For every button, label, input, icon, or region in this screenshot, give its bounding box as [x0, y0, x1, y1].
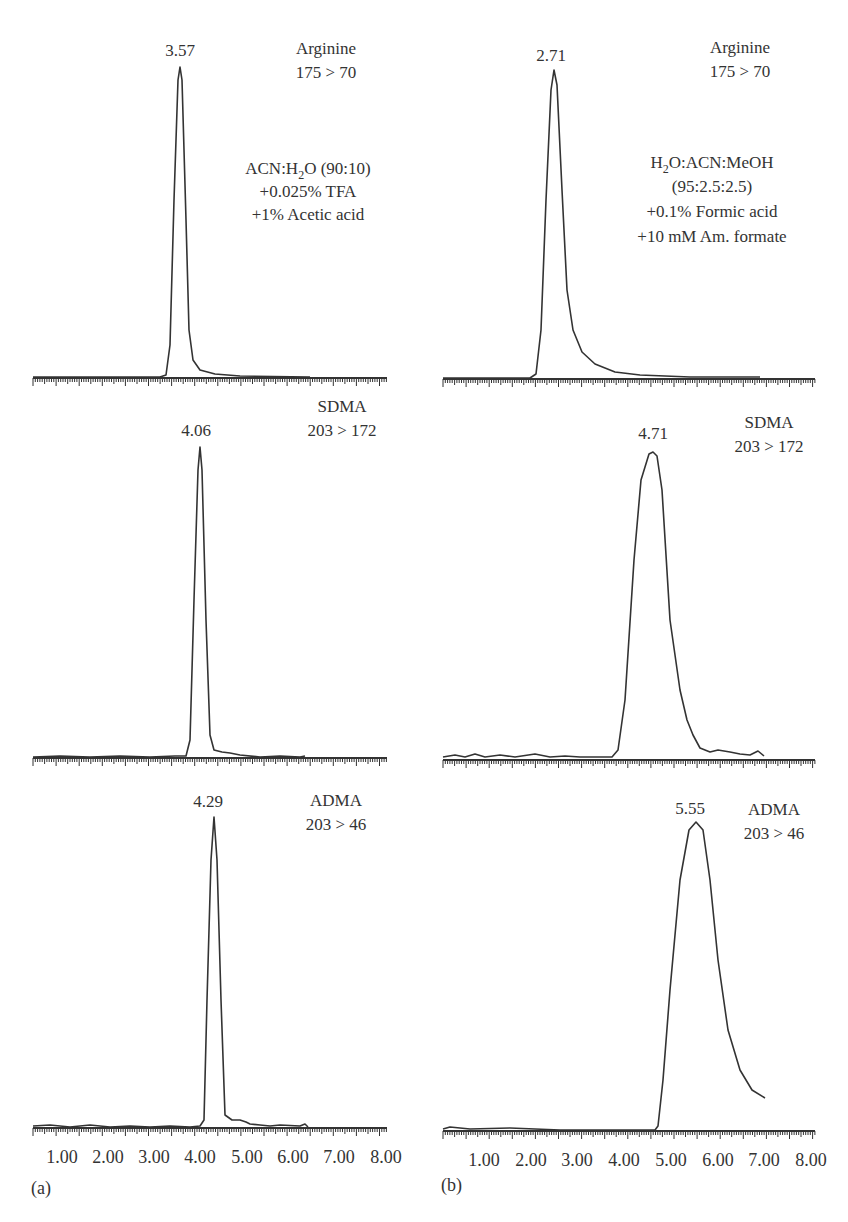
time-axis-a-1	[33, 378, 387, 386]
mobile-phase-b-line2: (95:2.5:2.5)	[672, 177, 752, 196]
axes	[33, 378, 815, 1139]
time-axis-b-2	[443, 760, 815, 768]
peak-label-b-adma: 5.55	[675, 799, 705, 818]
mobile-phase-b-line1: H2O:ACN:MeOH	[650, 153, 773, 176]
svg-text:2.00: 2.00	[515, 1150, 547, 1170]
compound-name-a-adma: ADMA	[310, 791, 363, 810]
trace-b-sdma	[443, 452, 764, 757]
transition-b-arginine: 175 > 70	[710, 62, 771, 81]
svg-text:5.00: 5.00	[655, 1150, 687, 1170]
compound-name-b-adma: ADMA	[748, 800, 801, 819]
panel-label-b: (b)	[441, 1175, 462, 1196]
time-axis-b-1	[443, 379, 815, 387]
x-tick-labels-a: 1.00 2.00 3.00 4.00 5.00 6.00 7.00 8.00	[46, 1147, 402, 1167]
svg-text:2.00: 2.00	[92, 1147, 124, 1167]
peak-label-a-arginine: 3.57	[165, 41, 195, 60]
x-tick-labels-b: 1.00 2.00 3.00 4.00 5.00 6.00 7.00 8.00	[468, 1150, 827, 1170]
svg-text:6.00: 6.00	[702, 1150, 734, 1170]
compound-name-a-sdma: SDMA	[317, 397, 367, 416]
svg-text:5.00: 5.00	[231, 1147, 263, 1167]
mobile-phase-a-line2: +0.025% TFA	[260, 182, 358, 201]
transition-a-sdma: 203 > 172	[307, 421, 376, 440]
compound-name-a-arginine: Arginine	[296, 39, 356, 58]
transition-a-adma: 203 > 46	[306, 815, 367, 834]
mobile-phase-a-line3: +1% Acetic acid	[252, 205, 365, 224]
svg-text:8.00: 8.00	[370, 1147, 402, 1167]
svg-text:7.00: 7.00	[323, 1147, 355, 1167]
svg-text:1.00: 1.00	[46, 1147, 78, 1167]
trace-a-adma	[33, 817, 308, 1127]
compound-name-b-sdma: SDMA	[744, 413, 794, 432]
svg-text:1.00: 1.00	[468, 1150, 500, 1170]
chromatogram-figure: 3.57 Arginine 175 > 70 ACN:H2O (90:10) +…	[0, 0, 848, 1222]
panel-label-a: (a)	[31, 1178, 51, 1199]
trace-b-adma	[443, 822, 765, 1130]
svg-text:7.00: 7.00	[748, 1150, 780, 1170]
svg-text:3.00: 3.00	[561, 1150, 593, 1170]
time-axis-a-3	[33, 1128, 387, 1136]
trace-b-arginine	[443, 70, 760, 378]
transition-a-arginine: 175 > 70	[296, 63, 357, 82]
peak-label-a-adma: 4.29	[193, 792, 223, 811]
svg-text:4.00: 4.00	[184, 1147, 216, 1167]
time-axis-b-3	[443, 1131, 815, 1139]
trace-a-sdma	[33, 447, 305, 757]
peak-label-a-sdma: 4.06	[181, 421, 211, 440]
time-axis-a-2	[33, 758, 387, 766]
mobile-phase-b-line4: +10 mM Am. formate	[637, 227, 786, 246]
transition-b-sdma: 203 > 172	[734, 437, 803, 456]
peak-label-b-arginine: 2.71	[536, 46, 566, 65]
transition-b-adma: 203 > 46	[744, 824, 805, 843]
compound-name-b-arginine: Arginine	[710, 38, 770, 57]
peak-label-b-sdma: 4.71	[638, 424, 668, 443]
svg-text:6.00: 6.00	[277, 1147, 309, 1167]
mobile-phase-a-line1: ACN:H2O (90:10)	[245, 159, 370, 182]
svg-text:4.00: 4.00	[608, 1150, 640, 1170]
svg-text:8.00: 8.00	[795, 1150, 827, 1170]
mobile-phase-b-line3: +0.1% Formic acid	[647, 202, 778, 221]
svg-text:3.00: 3.00	[138, 1147, 170, 1167]
